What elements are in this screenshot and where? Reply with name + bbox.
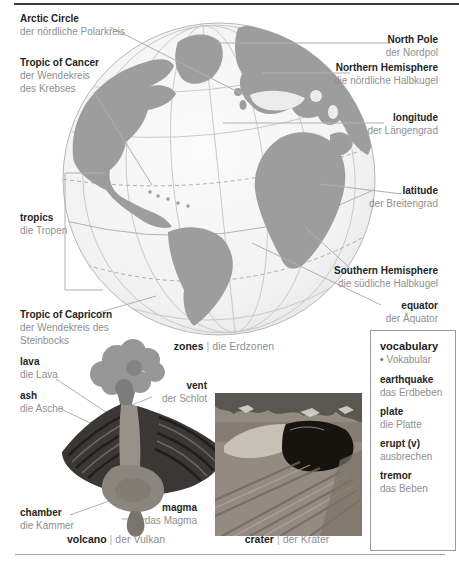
vocabulary-subtitle: •Vokabular xyxy=(380,353,450,367)
label-chamber: chamber die Kammer xyxy=(20,506,100,532)
label-arctic-circle: Arctic Circle der nördliche Polarkreis xyxy=(20,12,140,38)
label-vent: vent der Schlot xyxy=(127,379,207,405)
vocabulary-title: vocabulary xyxy=(380,339,450,353)
caption-zones: zones|die Erdzonen xyxy=(124,340,324,353)
label-magma: magma das Magma xyxy=(117,501,197,527)
caption-crater: crater|der Krater xyxy=(187,533,387,546)
label-ash: ash die Asche xyxy=(20,389,90,415)
bullet-icon: • xyxy=(380,354,384,365)
crater-photo xyxy=(215,393,362,536)
vocabulary-box: vocabulary •Vokabular earthquake das Erd… xyxy=(370,330,456,551)
vocab-entry-erupt: erupt (v) ausbrechen xyxy=(380,437,450,463)
label-northern-hemisphere: Northern Hemisphere die nördliche Halbku… xyxy=(308,61,438,87)
label-southern-hemisphere: Southern Hemisphere die südliche Halbkug… xyxy=(308,264,438,290)
label-equator: equator der Äquator xyxy=(318,299,438,325)
british-isles-shape xyxy=(240,100,247,110)
label-longitude: longitude der Längengrad xyxy=(318,111,438,137)
label-tropic-of-cancer: Tropic of Cancer der Wendekreis des Kreb… xyxy=(20,56,100,95)
vocab-entry-tremor: tremor das Beben xyxy=(380,469,450,495)
vocab-entry-earthquake: earthquake das Erdbeben xyxy=(380,373,450,399)
label-tropics: tropics die Tropen xyxy=(20,211,110,237)
label-latitude: latitude der Breitengrad xyxy=(318,184,438,210)
label-tropic-of-capricorn: Tropic of Capricorn der Wendekreis des S… xyxy=(20,308,110,347)
vocab-entry-plate: plate die Platte xyxy=(380,405,450,431)
label-north-pole: North Pole der Nordpol xyxy=(308,33,438,59)
caption-volcano: volcano|der Vulkan xyxy=(16,533,216,546)
label-lava: lava die Lava xyxy=(20,355,90,381)
